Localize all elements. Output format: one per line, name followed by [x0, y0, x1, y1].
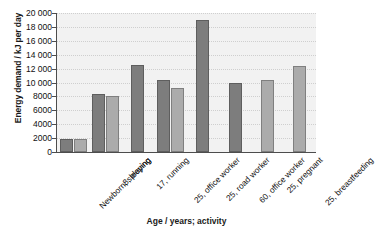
bar-female-7 [293, 66, 306, 152]
y-axis-tick-mark [52, 41, 56, 42]
gridline [57, 69, 316, 70]
y-axis-tick-mark [52, 69, 56, 70]
bar-male-1 [92, 94, 105, 152]
bar-male-4 [196, 20, 209, 152]
x-axis-tick-label: 17, running [154, 155, 190, 191]
y-axis-tick-label: 8000 [2, 91, 52, 101]
gridline [57, 83, 316, 84]
y-axis-tick-label: 12 000 [2, 64, 52, 74]
y-axis-line [56, 13, 57, 153]
y-axis-tick-mark [52, 13, 56, 14]
gridline [57, 13, 316, 14]
x-axis-title: Age / years; activity [57, 216, 316, 226]
y-axis-tick-label: 10 000 [2, 78, 52, 88]
y-axis-tick-label: 2000 [2, 133, 52, 143]
y-axis-tick-mark [52, 83, 56, 84]
y-axis-tick-label: 0 [2, 147, 52, 157]
y-axis-tick-mark [52, 27, 56, 28]
x-axis-tick-label: 25, breastfeeding [323, 155, 375, 207]
bar-female-0 [74, 139, 87, 152]
bar-male-5 [229, 83, 242, 152]
gridline [57, 27, 316, 28]
bar-male-0 [60, 139, 73, 152]
bar-male-3 [157, 80, 170, 152]
y-axis-tick-mark [52, 96, 56, 97]
y-axis-tick-mark [52, 110, 56, 111]
y-axis-tick-label: 16 000 [2, 36, 52, 46]
y-axis-tick-label: 18 000 [2, 22, 52, 32]
x-axis-tick-label: 8, playing [120, 155, 152, 187]
bar-female-6 [261, 80, 274, 152]
gridline [57, 55, 316, 56]
y-axis-tick-mark [52, 124, 56, 125]
bar-male-2 [131, 65, 144, 152]
y-axis-tick-label: 4000 [2, 119, 52, 129]
y-axis-tick-label: 14 000 [2, 50, 52, 60]
bar-female-1 [106, 96, 119, 152]
y-axis-tick-mark [52, 55, 56, 56]
y-axis-tick-mark [52, 138, 56, 139]
plot-area [57, 13, 316, 152]
x-axis-line [56, 152, 316, 153]
bar-female-3 [171, 88, 184, 152]
y-axis-tick-label: 20 000 [2, 8, 52, 18]
y-axis-tick-label: 6000 [2, 105, 52, 115]
y-axis-tick-mark [52, 152, 56, 153]
gridline [57, 41, 316, 42]
